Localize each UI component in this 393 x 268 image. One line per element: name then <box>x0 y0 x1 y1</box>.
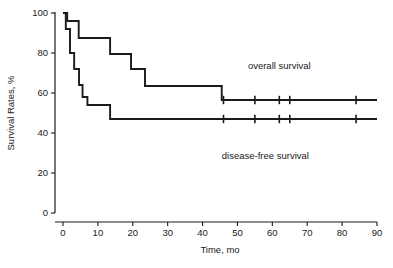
survival-curve-figure: 020406080100 0102030405060708090 Surviva… <box>0 0 393 268</box>
y-axis: 020406080100 <box>32 7 55 218</box>
survival-curves <box>63 13 377 119</box>
y-tick-label-20: 20 <box>37 167 48 178</box>
y-tick-label-100: 100 <box>32 7 48 18</box>
x-axis-tick-labels: 0102030405060708090 <box>60 227 382 238</box>
x-tick-label-30: 30 <box>162 227 173 238</box>
x-axis-title: Time, mo <box>200 244 239 255</box>
x-tick-label-20: 20 <box>127 227 138 238</box>
disease-free-survival-label: disease-free survival <box>222 150 309 161</box>
curve-disease-free-survival <box>63 13 377 119</box>
y-axis-tick-labels: 020406080100 <box>32 7 48 218</box>
x-tick-label-80: 80 <box>337 227 348 238</box>
x-tick-label-90: 90 <box>372 227 383 238</box>
x-tick-label-60: 60 <box>267 227 278 238</box>
x-axis: 0102030405060708090 <box>55 222 382 238</box>
x-tick-label-70: 70 <box>302 227 313 238</box>
x-tick-label-0: 0 <box>60 227 65 238</box>
x-axis-ticks <box>63 222 377 226</box>
overall-survival-label: overall survival <box>248 60 311 71</box>
y-tick-label-40: 40 <box>37 127 48 138</box>
x-tick-label-40: 40 <box>197 227 208 238</box>
x-tick-label-50: 50 <box>232 227 243 238</box>
curve-overall-survival <box>63 13 377 100</box>
y-axis-title: Survival Rates, % <box>5 75 16 151</box>
y-tick-label-60: 60 <box>37 87 48 98</box>
x-tick-label-10: 10 <box>93 227 104 238</box>
kaplan-meier-plot: 020406080100 0102030405060708090 Surviva… <box>0 0 393 268</box>
y-tick-label-0: 0 <box>43 207 48 218</box>
y-tick-label-80: 80 <box>37 47 48 58</box>
